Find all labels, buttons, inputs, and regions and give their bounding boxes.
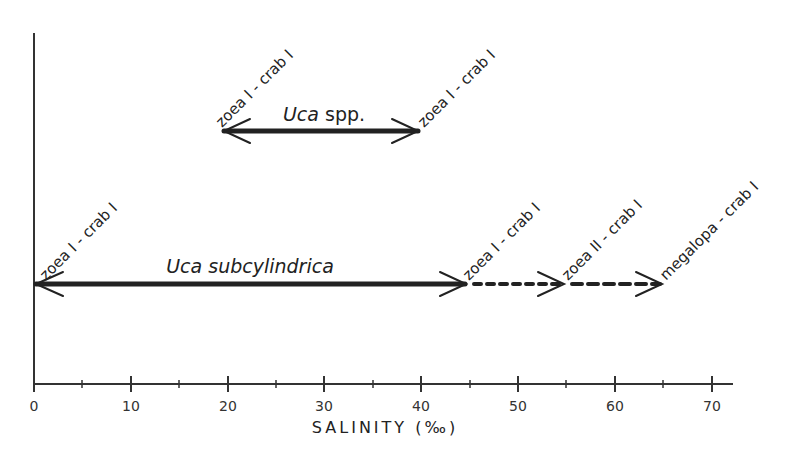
- x-tick-labels: 0 10 20 30 40 50 60 70: [30, 398, 721, 414]
- stage-label-sub-55: zoea II - crab I: [558, 196, 646, 284]
- uca-subcylindrica-label: Uca subcylindrica: [166, 255, 334, 277]
- uca-subcylindrica-dashed-arrow-2: [572, 272, 662, 296]
- stage-label-sub-65: megalopa - crab I: [656, 178, 762, 284]
- x-tick-label: 0: [30, 398, 39, 414]
- uca-spp-label: Uca spp.: [283, 103, 365, 125]
- x-axis-title: SALINITY (‰): [312, 418, 458, 437]
- stage-label-sub-45: zoea I - crab I: [459, 199, 544, 284]
- x-tick-label: 10: [122, 398, 140, 414]
- x-tick-label: 60: [606, 398, 624, 414]
- salinity-range-chart: 0 10 20 30 40 50 60 70 SALINITY (‰) Uca …: [0, 0, 786, 458]
- stage-label-sub-start: zoea I - crab I: [36, 199, 121, 284]
- x-tick-label: 70: [703, 398, 721, 414]
- x-tick-label: 50: [509, 398, 527, 414]
- x-tick-label: 30: [315, 398, 333, 414]
- uca-subcylindrica-dashed-arrow-1: [474, 272, 564, 296]
- x-tick-label: 40: [412, 398, 430, 414]
- x-tick-label: 20: [219, 398, 237, 414]
- stage-label-uca-spp-end: zoea I - crab I: [414, 46, 499, 131]
